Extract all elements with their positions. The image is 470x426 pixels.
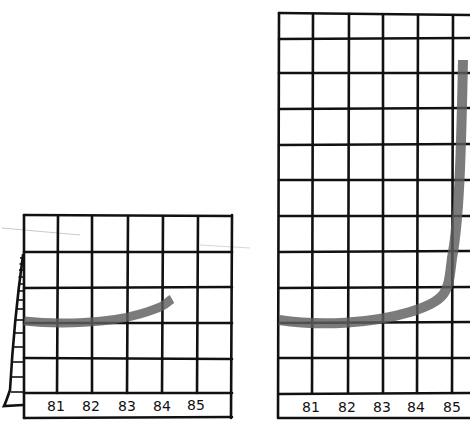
- x-tick-label: 81: [302, 399, 320, 415]
- x-tick-label: 83: [373, 399, 391, 415]
- x-tick-label: 83: [118, 398, 136, 414]
- x-tick-label: 84: [153, 398, 171, 414]
- stray-pencil-line: [200, 245, 250, 248]
- right-chart-grid: [278, 13, 470, 418]
- x-tick-label: 81: [47, 398, 65, 414]
- right-chart: 81 82 83 84 85: [278, 13, 470, 418]
- x-tick-label: 84: [407, 399, 425, 415]
- left-chart: 81 82 83 84 85: [4, 215, 232, 418]
- comic-chart-canvas: 81 82 83 84 85: [0, 0, 470, 426]
- stray-pencil-line: [2, 228, 80, 235]
- x-tick-label: 82: [82, 398, 100, 414]
- x-tick-label: 85: [187, 397, 205, 413]
- left-chart-x-axis: 81 82 83 84 85: [47, 397, 205, 414]
- paper-fold-ladder: [4, 255, 24, 406]
- left-chart-trend-curve: [24, 299, 172, 323]
- right-chart-x-axis: 81 82 83 84 85: [302, 399, 461, 415]
- right-chart-trend-curve: [279, 60, 463, 323]
- x-tick-label: 82: [338, 399, 356, 415]
- x-tick-label: 85: [443, 399, 461, 415]
